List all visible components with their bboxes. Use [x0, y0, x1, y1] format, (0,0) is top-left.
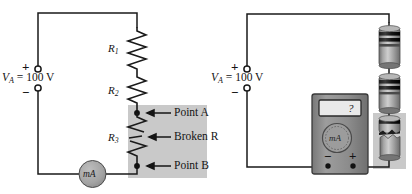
- source-value-left: 100 V: [26, 71, 54, 83]
- wire-top-right: [247, 14, 389, 69]
- resistor-top-body: [379, 26, 400, 69]
- source-label-left: VA = 100 V: [2, 72, 54, 85]
- source-equals-left: =: [17, 71, 24, 83]
- circuit-figure: + − VA = 100 V R1 R2 R3 mA Point A Broke…: [0, 0, 412, 194]
- multimeter-negative-label: −: [324, 150, 331, 163]
- r3-symbol: R: [108, 131, 115, 143]
- source-equals-right: =: [226, 71, 233, 83]
- source-value-right: 100 V: [235, 71, 263, 83]
- r1-subscript: 1: [115, 47, 119, 56]
- r2-symbol: R: [108, 84, 115, 96]
- source-minus-sign-right: −: [231, 86, 238, 99]
- r3-subscript: 3: [115, 136, 119, 145]
- callout-broken-r-text: Broken R: [174, 130, 218, 142]
- callout-point-b: Point B: [174, 160, 209, 172]
- resistor-r1-symbol: [128, 27, 146, 74]
- source-minus-sign-left: −: [22, 86, 29, 99]
- wire-top-left: [38, 13, 137, 69]
- multimeter-display-value: ?: [348, 103, 354, 114]
- source-minus-terminal-left: [35, 85, 41, 91]
- resistor-middle-body: [379, 74, 400, 114]
- milliammeter-label-left: mA: [83, 170, 96, 180]
- callout-point-a: Point A: [174, 107, 209, 119]
- dmm-negative-jack: [325, 163, 330, 168]
- resistor-r3-label: R3: [108, 132, 119, 145]
- r2-subscript: 2: [115, 89, 119, 98]
- resistor-r2-label: R2: [108, 85, 119, 98]
- source-symbol-left: V: [2, 71, 9, 83]
- source-label-right: VA = 100 V: [211, 72, 263, 85]
- resistor-r1-label: R1: [108, 43, 119, 56]
- wire-bottom-left: [38, 88, 79, 174]
- callout-broken-r: Broken R: [174, 131, 218, 143]
- source-symbol-right: V: [211, 71, 218, 83]
- point-b-node: [134, 163, 140, 169]
- resistor-bottom-broken-body: [379, 116, 400, 161]
- dmm-positive-jack: [350, 163, 355, 168]
- wire-source-to-dmm: [247, 88, 312, 167]
- r1-symbol: R: [108, 42, 115, 54]
- multimeter-positive-label: +: [349, 149, 356, 162]
- source-subscript-right: A: [218, 76, 223, 85]
- source-minus-terminal-right: [244, 85, 250, 91]
- source-subscript-left: A: [9, 76, 14, 85]
- multimeter-dial-label: mA: [329, 134, 341, 143]
